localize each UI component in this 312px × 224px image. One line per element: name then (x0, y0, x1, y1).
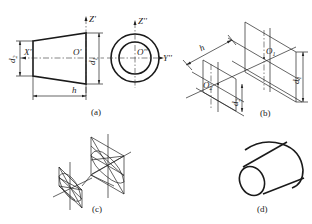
panel-a: Z' X' O' h d2 d1 Z'' O'' Y'' (a) (7, 14, 173, 117)
main-axis (186, 47, 296, 98)
caption-c: (c) (92, 204, 102, 214)
label-d1: d1 (87, 58, 98, 66)
label-o1: O1 (266, 46, 276, 57)
panel-c: (c) (53, 134, 131, 214)
side-view: Z'' O'' Y'' (107, 16, 173, 88)
label-x-prime: X' (23, 47, 32, 57)
label-h: h (72, 85, 77, 95)
z-double-prime-arrow (134, 20, 137, 25)
label-z-prime: Z' (89, 14, 97, 24)
bottom-generator-line (263, 178, 304, 194)
cone-outline (33, 33, 86, 84)
rhombus-large: d1 O1 (228, 22, 308, 102)
caption-d: (d) (257, 204, 268, 214)
ellipse-construction-large (91, 134, 131, 198)
label-o-prime: O' (73, 47, 82, 57)
label-h-b: h (198, 42, 207, 53)
rhombus-small: d2 O2 (192, 60, 244, 116)
label-o-double-prime: O'' (137, 47, 148, 57)
dim-h-b (186, 40, 232, 65)
label-d2: d2 (7, 56, 18, 64)
label-y-double-prime: Y'' (163, 53, 173, 63)
figure-canvas: Z' X' O' h d2 d1 Z'' O'' Y'' (a) (0, 0, 312, 224)
label-d1-b: d1 (291, 77, 302, 85)
label-z-double-prime: Z'' (138, 16, 148, 26)
panel-d: (d) (235, 142, 304, 214)
top-generator-line (243, 142, 287, 167)
panel-b: d1 O1 d2 O2 h (b) (183, 22, 308, 118)
ellipse-construction-small (53, 162, 92, 210)
caption-a: (a) (91, 107, 101, 117)
label-d2-b: d2 (230, 99, 241, 107)
front-view: Z' X' O' h d2 d1 (7, 14, 104, 100)
isometric-truncated-cone (235, 142, 304, 200)
caption-b: (b) (260, 108, 271, 118)
label-o2: O2 (203, 80, 213, 91)
z-axis-arrow (85, 16, 88, 21)
